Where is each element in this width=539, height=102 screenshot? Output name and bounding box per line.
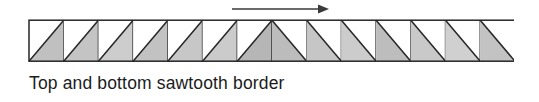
direction-arrow bbox=[228, 0, 338, 18]
arrow-head-icon bbox=[318, 5, 329, 14]
sawtooth-cell-group bbox=[29, 20, 514, 61]
sawtooth-border-band bbox=[28, 19, 514, 63]
figure-caption: Top and bottom sawtooth border bbox=[29, 69, 509, 99]
sawtooth-band-graphic bbox=[28, 19, 514, 63]
sawtooth-border-figure: Top and bottom sawtooth border bbox=[0, 0, 539, 102]
direction-arrow-icon bbox=[228, 0, 338, 18]
